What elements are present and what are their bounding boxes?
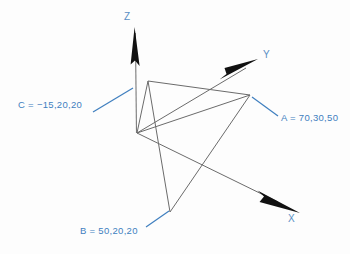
diagram-vector-scene [0, 0, 350, 254]
z-axis-arrowhead [131, 27, 140, 66]
annotation-label-c: C = −15,20,20 [18, 100, 82, 110]
y-axis-label: Y [263, 50, 270, 60]
y-axis-arrowhead [220, 59, 259, 80]
z-axis-label: Z [124, 12, 130, 22]
annotation-label-a: A = 70,30,50 [281, 113, 338, 123]
annotation-leader-lines [93, 88, 278, 227]
annotation-label-b: B = 50,20,20 [80, 226, 138, 236]
y-axis-line [137, 68, 246, 133]
diagram-canvas: A = 70,30,50 B = 50,20,20 C = −15,20,20 … [0, 0, 350, 254]
leader-line-b [146, 211, 169, 227]
x-axis-arrowhead [258, 191, 301, 214]
leader-line-c [93, 88, 133, 112]
triangle-edge-ca [148, 81, 250, 95]
axis-lines [135, 33, 278, 202]
triangle-edge-ab [170, 95, 250, 212]
x-axis-label: X [288, 214, 295, 224]
axis-arrowheads [131, 27, 300, 213]
construction-lines [137, 81, 250, 133]
construction-line-origin-to-c [137, 81, 148, 133]
leader-line-a [252, 97, 278, 116]
triangle-edge-bc [148, 81, 170, 212]
